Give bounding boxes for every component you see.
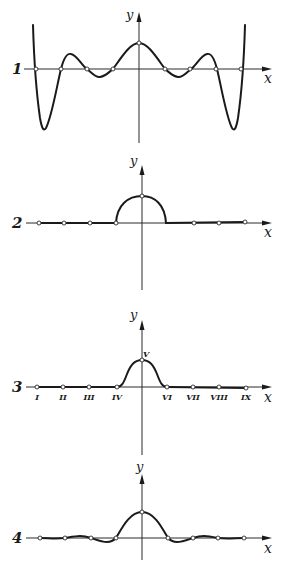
panel-3-node-label-I: I xyxy=(35,393,39,401)
panel-1-node xyxy=(239,67,243,71)
panel-2-node-peak xyxy=(140,194,144,198)
panel-3-node-III xyxy=(87,385,91,389)
panel-1-node xyxy=(214,67,218,71)
panel-1-node-peak xyxy=(137,41,141,45)
panel-2-y-arrow-icon xyxy=(140,165,145,175)
panel-3-node-VIII xyxy=(217,385,221,389)
panel-4-y-label: y xyxy=(136,460,143,473)
panel-3-node-VI xyxy=(165,385,169,389)
panel-4-node xyxy=(166,536,170,540)
panel-2-node xyxy=(217,221,221,225)
panel-3-node-VII xyxy=(191,385,195,389)
panel-1-node xyxy=(34,67,38,71)
panel-2-node xyxy=(243,220,247,224)
panel-1-plot xyxy=(24,12,272,143)
panel-3-x-label: x xyxy=(264,390,272,404)
panel-1-node xyxy=(59,67,63,71)
panel-2-plot xyxy=(26,165,272,290)
panel-1-x-label: x xyxy=(264,71,272,85)
plots-canvas xyxy=(0,0,286,568)
panel-3-node-label-III: III xyxy=(83,393,94,401)
panel-3-y-label: y xyxy=(130,308,137,321)
panel-3-plot xyxy=(26,320,272,455)
panel-3-node-IV xyxy=(115,385,119,389)
panel-2-dome xyxy=(116,196,166,223)
panel-2-x-label: x xyxy=(264,225,272,239)
panel-4-plot xyxy=(26,474,272,560)
panel-1-y-label: y xyxy=(126,8,133,21)
panel-3-node-label-VIII: VIII xyxy=(210,393,227,401)
panel-2-curve-right xyxy=(166,222,245,223)
panel-1-node xyxy=(188,67,192,71)
panel-3-peak-label: V xyxy=(143,350,149,358)
panel-2-number: 2 xyxy=(12,216,22,231)
panel-2-node xyxy=(192,221,196,225)
panel-4-node-peak xyxy=(140,510,144,514)
panel-3-node-label-VI: VI xyxy=(162,393,172,401)
panel-4-node xyxy=(89,536,93,540)
panel-4-node xyxy=(242,536,246,540)
panel-3-node-label-VII: VII xyxy=(186,393,200,401)
panel-1-number: 1 xyxy=(12,62,22,77)
panel-2-node xyxy=(88,221,92,225)
panel-3-node-label-IX: IX xyxy=(241,393,251,401)
panel-3-node-I xyxy=(35,385,39,389)
panel-2-node xyxy=(62,221,66,225)
panel-4-node xyxy=(38,536,42,540)
panel-1-node xyxy=(111,67,115,71)
panel-4-node xyxy=(63,536,67,540)
panel-3-number: 3 xyxy=(12,380,22,395)
panel-1-node xyxy=(85,67,89,71)
panel-4-number: 4 xyxy=(12,531,22,546)
panel-2-y-label: y xyxy=(130,154,137,167)
panel-4-y-arrow-icon xyxy=(140,474,145,484)
panel-4-x-label: x xyxy=(264,541,272,555)
interpolation-figure: 1 y x 2 y x 3 y x V I II III IV VI VII V… xyxy=(0,0,286,568)
panel-1-node xyxy=(163,67,167,71)
panel-3-y-arrow-icon xyxy=(140,320,145,330)
panel-2-node xyxy=(37,221,41,225)
panel-3-node-IX xyxy=(244,386,248,390)
panel-3-node-II xyxy=(61,385,65,389)
panel-3-node-label-II: II xyxy=(59,393,66,401)
panel-4-node xyxy=(191,536,195,540)
panel-1-y-arrow-icon xyxy=(137,12,142,22)
panel-4-node xyxy=(114,536,118,540)
panel-3-node-label-IV: IV xyxy=(112,393,122,401)
panel-4-node xyxy=(216,536,220,540)
panel-2-node xyxy=(114,221,118,225)
